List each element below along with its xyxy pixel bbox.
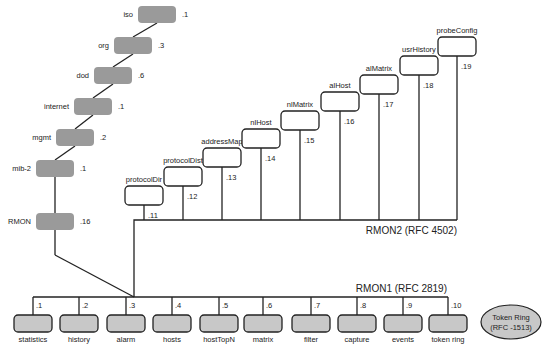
token-ring-label: Token Ring [492, 313, 530, 322]
group-oid: .12 [187, 192, 197, 201]
chain-connector [75, 115, 93, 129]
group-label: statistics [19, 335, 48, 344]
group-label: alarm [117, 335, 136, 344]
oid-label: org [98, 41, 109, 50]
oid-node-iso: iso.1 [123, 6, 188, 23]
group-oid: .11 [148, 211, 158, 220]
group-label: nlMatrix [287, 100, 314, 109]
group-oid: .5 [222, 301, 228, 310]
rmon1-group-capture: .8capture [338, 297, 376, 344]
group-oid: .7 [314, 301, 320, 310]
oid-label: mgmt [32, 133, 52, 142]
oid-number: .3 [158, 41, 164, 50]
rmon2-group-alhost: alHost.16 [321, 81, 359, 220]
group-label: probeConfig [437, 26, 478, 35]
token-ring-rfc: (RFC -1513) [490, 323, 532, 332]
rmon2-group-protocoldir: protocolDir.11 [125, 175, 163, 220]
rmon2-group-nlmatrix: nlMatrix.15 [281, 100, 319, 220]
group-oid: .19 [461, 62, 471, 71]
rmon-mib-tree-diagram: iso.1org.3dod.6internet.1mgmt.2mib-2.1RM… [0, 0, 544, 351]
oid-node-org: org.3 [98, 37, 164, 54]
chain-connector [133, 23, 157, 37]
rmon1-group-hosttopn: .5hostTopN [200, 297, 238, 344]
oid-label: mib-2 [12, 164, 31, 173]
oid-number: .16 [80, 217, 90, 226]
rmon2-group-probeconfig: probeConfig.19 [437, 26, 478, 220]
rmon2-group-usrhistory: usrHistory.18 [400, 45, 438, 220]
rmon2-group-protocoldist: protocolDist.12 [163, 156, 204, 220]
group-oid: .13 [226, 173, 236, 182]
rmon2-group-addressmap: addressMap.13 [201, 137, 242, 220]
group-label: hostTopN [203, 335, 235, 344]
oid-node-rmon: RMON.16 [8, 213, 90, 230]
group-oid: .2 [82, 301, 88, 310]
oid-number: .6 [138, 71, 144, 80]
group-oid: .3 [129, 301, 135, 310]
rmon2-group-nlhost: nlHost.14 [242, 118, 280, 220]
chain-connector [93, 84, 113, 98]
group-label: addressMap [201, 137, 242, 146]
rmon1-title: RMON1 (RFC 2819) [356, 283, 447, 294]
group-label: history [68, 335, 90, 344]
rmon1-group-statistics: .1statistics [14, 297, 52, 344]
group-label: alHost [329, 81, 351, 90]
group-oid: .10 [451, 301, 461, 310]
chain-connector [113, 54, 133, 67]
oid-number: .1 [80, 164, 86, 173]
group-label: protocolDir [126, 175, 163, 184]
oid-node-mgmt: mgmt.2 [32, 129, 106, 146]
oid-label: RMON [8, 217, 31, 226]
group-label: protocolDist [163, 156, 204, 165]
oid-node-mib-2: mib-2.1 [12, 160, 86, 177]
rmon1-group-matrix: .6matrix [244, 297, 282, 344]
group-label: events [392, 335, 414, 344]
group-oid: .17 [383, 100, 393, 109]
group-oid: .9 [406, 301, 412, 310]
oid-label: iso [123, 10, 133, 19]
oid-number: .1 [182, 10, 188, 19]
oid-node-dod: dod.6 [76, 67, 144, 84]
rmon1-groups: .1statistics.2history.3alarm.4hosts.5hos… [14, 297, 467, 344]
oid-label: dod [76, 71, 89, 80]
group-oid: .1 [36, 301, 42, 310]
rmon1-group-history: .2history [60, 297, 98, 344]
oid-number: .1 [118, 102, 124, 111]
rmon2-title: RMON2 (RFC 4502) [366, 225, 457, 236]
group-oid: .8 [360, 301, 366, 310]
group-oid: .16 [344, 117, 354, 126]
group-oid: .18 [423, 81, 433, 90]
oid-node-internet: internet.1 [44, 98, 124, 115]
group-oid: .4 [175, 301, 181, 310]
rmon1-group-events: .9events [384, 297, 422, 344]
rmon2-groups: protocolDir.11protocolDist.12addressMap.… [55, 26, 477, 297]
oid-number: .2 [100, 133, 106, 142]
group-oid: .15 [304, 136, 314, 145]
group-label: capture [344, 335, 369, 344]
rmon1-group-token-ring: .10token ring [429, 297, 467, 344]
group-oid: .6 [266, 301, 272, 310]
chain-connector [55, 146, 75, 160]
group-label: matrix [253, 335, 274, 344]
group-oid: .14 [265, 154, 275, 163]
group-label: nlHost [250, 118, 272, 127]
rmon2-group-almatrix: alMatrix.17 [360, 64, 398, 220]
group-label: hosts [163, 335, 181, 344]
rmon1-group-alarm: .3alarm [107, 297, 145, 344]
oid-label: internet [44, 102, 70, 111]
rmon1-group-filter: .7filter [292, 297, 330, 344]
group-label: token ring [432, 335, 465, 344]
group-label: alMatrix [366, 64, 393, 73]
group-label: usrHistory [402, 45, 436, 54]
token-ring-node: Token Ring (RFC -1513) [481, 305, 541, 339]
rmon1-group-hosts: .4hosts [153, 297, 191, 344]
group-label: filter [304, 335, 319, 344]
